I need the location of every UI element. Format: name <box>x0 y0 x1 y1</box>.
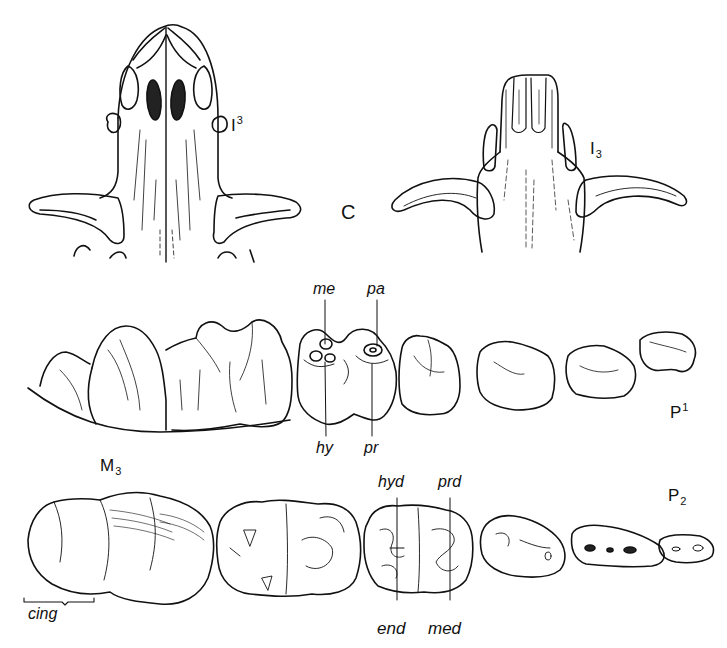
upper-cheek-tooth-row-drawing <box>28 300 696 436</box>
label-M3: M3 <box>100 457 121 474</box>
label-M3-base: M <box>100 456 114 475</box>
label-canine: C <box>341 202 355 222</box>
label-cingulum: cing <box>28 606 57 622</box>
figure-line-art <box>0 0 727 648</box>
label-protoconid: prd <box>438 474 461 490</box>
label-upper-I3-superscript: 3 <box>237 114 243 126</box>
label-upper-I3-base: I <box>231 116 236 135</box>
label-metaconid: med <box>428 620 461 637</box>
label-paracone: pa <box>367 281 385 297</box>
label-P1-superscript: 1 <box>682 401 688 413</box>
lower-snout-drawing <box>392 75 686 252</box>
label-upper-I3: I3 <box>231 117 243 134</box>
label-P2-subscript: 2 <box>680 495 686 507</box>
dental-anatomy-figure: I3 C I3 me pa hy pr P1 M3 hyd prd P2 cin… <box>0 0 727 648</box>
label-P1-base: P <box>670 403 681 422</box>
lower-cheek-tooth-row-drawing <box>24 493 714 605</box>
label-M3-subscript: 3 <box>115 465 121 477</box>
label-P2: P2 <box>668 487 686 504</box>
label-entoconid: end <box>377 620 405 637</box>
label-hypocone: hy <box>316 440 333 456</box>
label-metacone: me <box>313 281 335 297</box>
upper-snout-drawing <box>29 25 300 262</box>
label-hypoconid: hyd <box>378 474 404 490</box>
label-P1: P1 <box>670 404 688 421</box>
label-lower-I3-subscript: 3 <box>596 148 602 160</box>
label-lower-I3: I3 <box>590 140 602 157</box>
label-P2-base: P <box>668 486 679 505</box>
label-lower-I3-base: I <box>590 139 595 158</box>
label-protocone: pr <box>364 440 378 456</box>
